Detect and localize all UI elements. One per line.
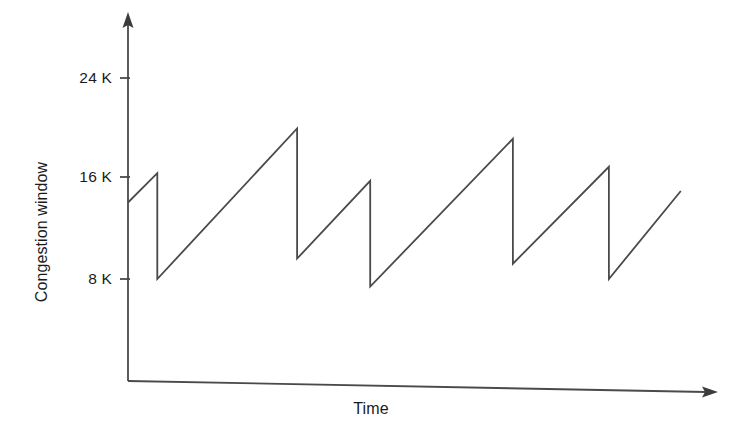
y-axis-title: Congestion window	[33, 127, 51, 337]
chart-canvas	[0, 0, 742, 443]
congestion-window-series	[128, 129, 681, 287]
y-tick-label-24k: 24 K	[54, 69, 112, 87]
x-axis-title: Time	[0, 400, 742, 418]
y-tick-label-16k: 16 K	[54, 168, 112, 186]
y-tick-label-8k: 8 K	[54, 270, 112, 288]
congestion-window-chart: 24 K 16 K 8 K Congestion window Time	[0, 0, 742, 443]
x-axis-line	[128, 381, 706, 392]
